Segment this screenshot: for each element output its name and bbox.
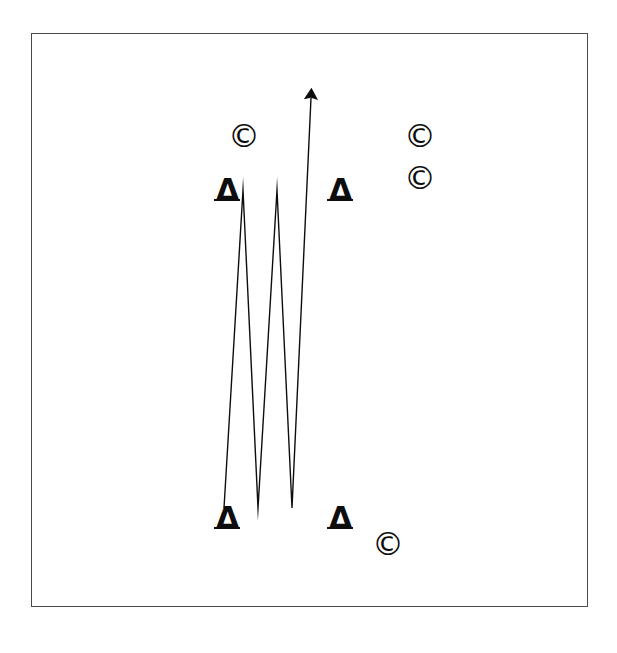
figure-canvas: ΔΔΔΔ©©©© (0, 0, 617, 653)
triangle-bottom-right-baseline (327, 527, 353, 529)
copyright-right-lower-icon: © (404, 162, 436, 194)
copyright-right-upper-icon: © (404, 120, 436, 152)
copyright-upper-left-icon: © (228, 120, 260, 152)
triangle-bottom-left-baseline (214, 527, 240, 529)
copyright-bottom-icon: © (372, 528, 404, 560)
figure-border (31, 33, 588, 607)
triangle-top-right-baseline (327, 199, 353, 201)
triangle-top-left-baseline (214, 199, 240, 201)
